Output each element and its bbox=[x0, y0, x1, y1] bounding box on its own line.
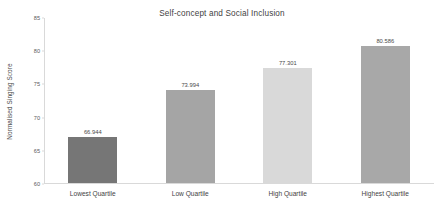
x-axis-labels: Lowest QuartileLow QuartileHigh Quartile… bbox=[44, 190, 434, 197]
bar-value-label: 73.994 bbox=[181, 82, 199, 88]
x-tick-label: High Quartile bbox=[239, 190, 337, 197]
bar-slot: 77.301 bbox=[239, 18, 337, 183]
bar-chart: Self-concept and Social Inclusion Normal… bbox=[0, 0, 444, 210]
bar[interactable]: 77.301 bbox=[263, 68, 312, 183]
x-tick-label: Low Quartile bbox=[142, 190, 240, 197]
y-tick-label: 85 bbox=[34, 15, 40, 21]
bar[interactable]: 73.994 bbox=[166, 90, 215, 183]
plot-area: 858075706560 66.94473.99477.30180.586 bbox=[44, 18, 434, 184]
chart-title: Self-concept and Social Inclusion bbox=[0, 9, 444, 18]
bar-slot: 80.586 bbox=[337, 18, 435, 183]
bar-value-label: 80.586 bbox=[376, 38, 394, 44]
bar[interactable]: 80.586 bbox=[361, 46, 410, 183]
y-tick-label: 70 bbox=[34, 115, 40, 121]
x-axis-line bbox=[44, 183, 434, 184]
bar-value-label: 66.944 bbox=[84, 129, 102, 135]
bar[interactable]: 66.944 bbox=[68, 137, 117, 183]
y-axis-title: Normalised Singing Score bbox=[2, 18, 16, 184]
y-tick-label: 80 bbox=[34, 48, 40, 54]
bar-value-label: 77.301 bbox=[279, 60, 297, 66]
x-tick-label: Lowest Quartile bbox=[44, 190, 142, 197]
y-tick-label: 75 bbox=[34, 81, 40, 87]
x-tick-label: Highest Quartile bbox=[337, 190, 435, 197]
bar-slot: 73.994 bbox=[142, 18, 240, 183]
y-axis-title-text: Normalised Singing Score bbox=[6, 63, 13, 139]
bar-series: 66.94473.99477.30180.586 bbox=[44, 18, 434, 183]
y-tick-label: 60 bbox=[34, 181, 40, 187]
y-tick-label: 65 bbox=[34, 148, 40, 154]
y-tick-mark bbox=[42, 184, 44, 185]
bar-slot: 66.944 bbox=[44, 18, 142, 183]
